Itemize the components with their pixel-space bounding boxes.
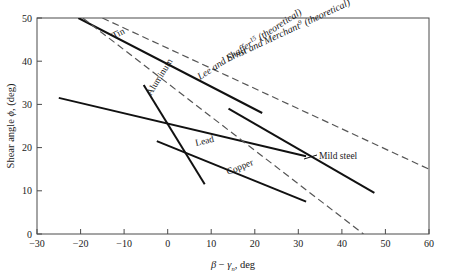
svg-text:Shear angle ϕ, (deg): Shear angle ϕ, (deg): [5, 83, 17, 168]
y-axis-title: Shear angle ϕ, (deg): [5, 83, 17, 168]
svg-text:β − γn, deg: β − γn, deg: [210, 259, 256, 272]
x-tick-label: 40: [337, 238, 347, 249]
series-label-lead: Lead: [194, 134, 215, 148]
x-axis-ticks: [37, 229, 429, 234]
y-tick-label: 20: [22, 142, 32, 153]
x-tick-label: 20: [250, 238, 260, 249]
series-label-ernst-and-merchant: Ernst and Merchant9 (theoretical): [223, 0, 353, 65]
x-tick-label: 0: [165, 238, 170, 249]
x-tick-label: 60: [424, 238, 434, 249]
series-line-aluminum: [144, 85, 205, 184]
x-axis-title: β − γn, deg: [210, 259, 256, 272]
ernst-label-suffix: (theoretical): [300, 0, 353, 29]
x-axis-tick-labels: −30 −20 −10 0 10 20 30 40 50 60: [29, 238, 434, 249]
y-tick-label: 50: [22, 13, 32, 24]
y-tick-label: 0: [27, 229, 32, 240]
x-tick-label: −20: [73, 238, 89, 249]
y-tick-label: 40: [22, 56, 32, 67]
series-line-lee-and-shaffer: [83, 18, 364, 234]
x-tick-label: 10: [206, 238, 216, 249]
y-axis-ticks: [37, 18, 42, 234]
y-tick-label: 30: [22, 99, 32, 110]
lee-label-name: Lee and Shaffer: [194, 38, 254, 82]
shear-angle-chart: −30 −20 −10 0 10 20 30 40 50 60 0 10 20 …: [0, 0, 452, 280]
series-label-aluminum: Aluminum: [144, 56, 175, 97]
y-tick-label: 10: [22, 185, 32, 196]
x-tick-label: −10: [116, 238, 132, 249]
chart-svg: −30 −20 −10 0 10 20 30 40 50 60 0 10 20 …: [0, 0, 452, 280]
series-label-lee-and-shaffer: Lee and Shaffer15 (theoretical): [194, 5, 304, 83]
y-axis-tick-labels: 0 10 20 30 40 50: [22, 13, 32, 240]
series-label-mild-steel: Mild steel: [319, 151, 358, 161]
x-tick-label: −30: [29, 238, 45, 249]
x-axis-title-deg: , deg: [235, 259, 256, 270]
x-tick-label: 30: [293, 238, 303, 249]
x-tick-label: 50: [380, 238, 390, 249]
y-axis-title-suffix: , (deg): [5, 83, 17, 111]
y-axis-title-prefix: Shear angle: [5, 116, 16, 168]
